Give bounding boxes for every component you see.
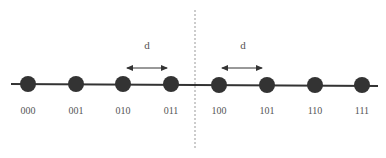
node-label: 000 (21, 105, 36, 116)
node-label: 001 (69, 105, 84, 116)
distance-marker-right: d (222, 39, 262, 68)
node-000: 000 (20, 76, 36, 116)
node-label: 100 (212, 105, 227, 116)
distance-marker-left: d (127, 39, 167, 68)
node-010: 010 (115, 76, 131, 116)
node-label: 101 (260, 105, 275, 116)
node-label: 111 (355, 105, 369, 116)
node-001: 001 (68, 76, 84, 116)
node-111: 111 (354, 77, 370, 116)
node-011: 011 (163, 76, 179, 116)
node-110: 110 (307, 77, 323, 116)
node-101: 101 (259, 77, 275, 116)
gray-code-diagram: d d 000 001 010 011 100 101 110 111 (0, 0, 386, 158)
node-label: 110 (308, 105, 323, 116)
distance-label: d (144, 39, 150, 51)
node-100: 100 (211, 77, 227, 116)
distance-label: d (240, 39, 246, 51)
node-label: 010 (116, 105, 131, 116)
node-label: 011 (164, 105, 179, 116)
